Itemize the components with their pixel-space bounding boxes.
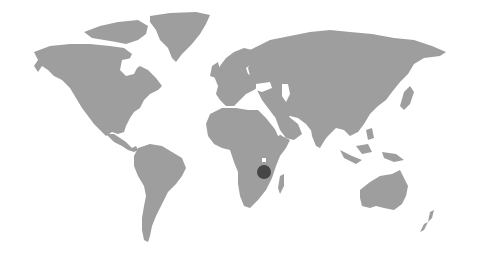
world-map-svg [0, 0, 481, 253]
location-marker-icon[interactable] [257, 165, 271, 179]
madagascar [278, 174, 284, 194]
lake-victoria [262, 158, 266, 162]
japan [400, 86, 414, 110]
australia [360, 170, 408, 210]
south-america [134, 144, 186, 242]
new-zealand [420, 210, 434, 232]
greenland [150, 12, 210, 62]
world-map [0, 0, 481, 253]
central-america [106, 134, 138, 152]
north-america [34, 44, 162, 136]
arctic-islands [84, 20, 148, 44]
asia [248, 30, 446, 142]
